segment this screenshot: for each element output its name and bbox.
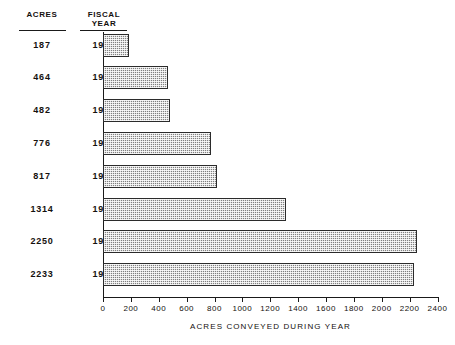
x-axis-tick-1400 <box>298 297 299 302</box>
x-axis-tick-800 <box>215 297 216 302</box>
bar-1963 <box>103 230 417 253</box>
bar-1960 <box>103 132 211 155</box>
bar-chart-figure: ACRES FISCAL YEAR 1871957464195848219597… <box>0 0 455 345</box>
bar-1959 <box>103 99 170 122</box>
bar-1957 <box>103 34 129 57</box>
plot-area: 0200400600800100012001400160018002000220… <box>0 0 455 345</box>
x-axis-tick-200 <box>131 297 132 302</box>
x-axis-tick-400 <box>159 297 160 302</box>
x-axis-tick-2000 <box>382 297 383 302</box>
bar-1961 <box>103 165 217 188</box>
x-axis-tick-0 <box>103 297 104 302</box>
bar-1958 <box>103 66 168 89</box>
x-axis-tick-label-2400: 2400 <box>418 304 455 313</box>
x-axis-tick-2200 <box>410 297 411 302</box>
bar-1962 <box>103 198 286 221</box>
x-axis-tick-1800 <box>354 297 355 302</box>
x-axis-tick-600 <box>187 297 188 302</box>
x-axis-tick-1600 <box>326 297 327 302</box>
x-axis-title: ACRES CONVEYED DURING YEAR <box>103 322 438 331</box>
x-axis-tick-2400 <box>438 297 439 302</box>
x-axis-tick-1200 <box>270 297 271 302</box>
bar-1964 <box>103 263 414 286</box>
x-axis-tick-1000 <box>242 297 243 302</box>
